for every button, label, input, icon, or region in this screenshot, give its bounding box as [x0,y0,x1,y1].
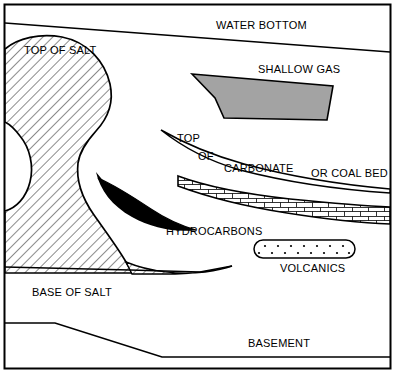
volcanics-lens-outline [254,240,355,258]
volcanics-body [254,240,355,258]
cross-section-canvas: WATER BOTTOM TOP OF SALT SHALLOW GAS TOP… [0,0,395,373]
label-top-of-salt: TOP OF SALT [24,44,97,56]
geological-cross-section-figure: WATER BOTTOM TOP OF SALT SHALLOW GAS TOP… [0,0,395,373]
label-hydrocarbons: HYDROCARBONS [166,225,263,237]
label-shallow-gas: SHALLOW GAS [258,63,340,75]
label-carbonate: CARBONATE [224,162,293,174]
label-volcanics: VOLCANICS [280,262,345,274]
label-base-of-salt: BASE OF SALT [32,286,112,298]
label-water-bottom: WATER BOTTOM [216,19,307,31]
label-of: OF [198,150,214,162]
label-basement: BASEMENT [248,337,310,349]
label-top: TOP [177,132,200,144]
label-or-coal-bed: OR COAL BED [311,167,388,179]
